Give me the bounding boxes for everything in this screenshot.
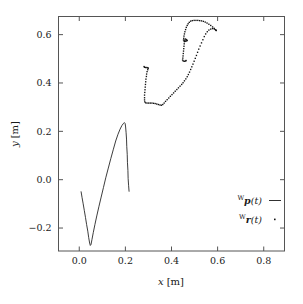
trajectory-dot bbox=[197, 20, 198, 21]
trajectory-dot bbox=[212, 26, 213, 27]
trajectory-dot bbox=[188, 74, 189, 75]
trajectory-dot bbox=[151, 102, 152, 103]
trajectory-dot bbox=[196, 55, 197, 56]
trajectory-dot bbox=[163, 102, 164, 103]
trajectory-dot bbox=[183, 60, 184, 61]
trajectory-dot bbox=[148, 102, 149, 103]
trajectory-dot bbox=[183, 48, 184, 49]
trajectory-dot bbox=[199, 45, 200, 46]
trajectory-dot bbox=[156, 103, 157, 104]
trajectory-dot bbox=[183, 50, 184, 51]
trajectory-dot bbox=[145, 67, 146, 68]
trajectory-dot bbox=[199, 20, 200, 21]
y-tick-labels: −0.20.00.20.40.6 bbox=[28, 29, 51, 233]
trajectory-dot bbox=[185, 78, 186, 79]
trajectory-dot bbox=[192, 63, 193, 64]
x-tick-label: 0.6 bbox=[210, 255, 225, 266]
y-tick-label: 0.4 bbox=[36, 77, 51, 88]
y-tick-label: 0.2 bbox=[36, 126, 51, 137]
trajectory-dot bbox=[183, 35, 184, 36]
trajectory-dot bbox=[210, 28, 211, 29]
trajectory-dot bbox=[185, 29, 186, 30]
legend: Wp(t)Wr(t) bbox=[237, 194, 281, 225]
trajectory-dot bbox=[184, 31, 185, 32]
trajectory-dot bbox=[161, 105, 162, 106]
trajectory-dot bbox=[144, 89, 145, 90]
trajectory-dot bbox=[176, 89, 177, 90]
trajectory-dot bbox=[210, 25, 211, 26]
trajectory-dot bbox=[215, 29, 216, 30]
trajectory-dot bbox=[146, 76, 147, 77]
trajectory-dot bbox=[162, 104, 163, 105]
trajectory-dot bbox=[207, 31, 208, 32]
trajectory-dot bbox=[179, 85, 180, 86]
trajectory-dot bbox=[205, 21, 206, 22]
trajectory-dot bbox=[154, 103, 155, 104]
legend-label-p: Wp(t) bbox=[237, 194, 262, 206]
trajectory-dot bbox=[185, 60, 186, 61]
trajectory-dot bbox=[147, 69, 148, 70]
trajectory-dot bbox=[145, 102, 146, 103]
trajectory-dot bbox=[201, 42, 202, 43]
trajectory-dot bbox=[144, 97, 145, 98]
series-p bbox=[81, 123, 129, 246]
x-tick-label: 0.8 bbox=[256, 255, 271, 266]
trajectory-dot bbox=[145, 86, 146, 87]
trajectory-dot bbox=[159, 104, 160, 105]
trajectory-dot bbox=[182, 55, 183, 56]
trajectory-dot bbox=[197, 52, 198, 53]
trajectory-dot bbox=[144, 99, 145, 100]
trajectory-dot bbox=[168, 97, 169, 98]
trajectory-dot bbox=[150, 102, 151, 103]
trajectory-dot bbox=[146, 73, 147, 74]
x-axis-title: x[m] bbox=[158, 276, 184, 287]
trajectory-dot bbox=[212, 28, 213, 29]
trajectory-dot bbox=[204, 36, 205, 37]
trajectory-dot bbox=[192, 20, 193, 21]
trajectory-dot bbox=[175, 91, 176, 92]
trajectory-dot bbox=[182, 57, 183, 58]
trajectory-plot: 0.00.20.40.60.8 −0.20.00.20.40.6 x[m] y[… bbox=[0, 0, 303, 304]
trajectory-dot bbox=[201, 20, 202, 21]
trajectory-dot bbox=[184, 41, 185, 42]
x-tick-label: 0.2 bbox=[118, 255, 133, 266]
trajectory-dot bbox=[187, 25, 188, 26]
trajectory-dot bbox=[182, 82, 183, 83]
trajectory-dot bbox=[186, 27, 187, 28]
trajectory-dot bbox=[184, 39, 185, 40]
trajectory-dot bbox=[202, 39, 203, 40]
y-tick-label: −0.2 bbox=[28, 222, 51, 233]
trajectory-dot bbox=[146, 71, 147, 72]
trajectory-dot bbox=[195, 58, 196, 59]
trajectory-dot bbox=[189, 22, 190, 23]
trajectory-dot bbox=[171, 94, 172, 95]
trajectory-dot bbox=[170, 96, 171, 97]
x-tick-label: 0.4 bbox=[164, 255, 179, 266]
trajectory-dot bbox=[145, 81, 146, 82]
trajectory-dot bbox=[190, 69, 191, 70]
trajectory-dot bbox=[189, 71, 190, 72]
y-tick-label: 0.6 bbox=[36, 29, 51, 40]
trajectory-dot bbox=[153, 103, 154, 104]
trajectory-dot bbox=[173, 92, 174, 93]
data-series bbox=[81, 20, 217, 246]
trajectory-dot bbox=[144, 67, 145, 68]
trajectory-dot bbox=[145, 78, 146, 79]
trajectory-dot bbox=[214, 28, 215, 29]
legend-label-r: Wr(t) bbox=[239, 213, 262, 225]
trajectory-dot bbox=[181, 84, 182, 85]
trajectory-dot bbox=[178, 87, 179, 88]
trajectory-dot bbox=[198, 48, 199, 49]
trajectory-dot bbox=[158, 104, 159, 105]
trajectory-dot bbox=[193, 20, 194, 21]
trajectory-dot bbox=[166, 99, 167, 100]
trajectory-dot bbox=[195, 20, 196, 21]
trajectory-dot bbox=[208, 24, 209, 25]
trajectory-dot bbox=[148, 68, 149, 69]
trajectory-dot bbox=[190, 20, 191, 21]
trajectory-dot bbox=[183, 46, 184, 47]
series-r bbox=[143, 20, 217, 106]
trajectory-dot bbox=[187, 23, 188, 24]
x-tick-labels: 0.00.20.40.60.8 bbox=[72, 255, 272, 266]
trajectory-dot bbox=[165, 101, 166, 102]
